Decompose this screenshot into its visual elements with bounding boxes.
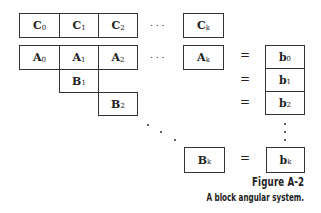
diagonal-dot bbox=[160, 131, 162, 133]
equals-k: = bbox=[238, 151, 252, 165]
rhs-bk: bk bbox=[266, 147, 305, 173]
diagonal-dot bbox=[174, 139, 176, 141]
block-b1: B1 bbox=[59, 69, 99, 93]
block-a2: A2 bbox=[98, 45, 138, 70]
vertical-dot bbox=[284, 123, 286, 125]
block-bk: Bk bbox=[184, 147, 225, 173]
block-b2: B2 bbox=[98, 92, 138, 116]
equals-0: = bbox=[238, 48, 252, 62]
equals-2: = bbox=[238, 95, 252, 109]
vertical-dot bbox=[284, 131, 286, 133]
figure-title: Figure A-2 bbox=[252, 175, 304, 189]
block-ck: Ck bbox=[183, 13, 224, 38]
vertical-dot bbox=[284, 139, 286, 141]
rhs-b0: b0 bbox=[265, 45, 305, 69]
block-a1: A1 bbox=[59, 45, 99, 70]
rhs-b2: b2 bbox=[265, 91, 305, 115]
block-c2: C2 bbox=[98, 13, 138, 38]
ellipsis-c: . . . bbox=[150, 18, 164, 28]
ellipsis-a: . . . bbox=[150, 50, 164, 60]
block-ak: Ak bbox=[183, 45, 224, 70]
equals-1: = bbox=[238, 72, 252, 86]
rhs-b1: b1 bbox=[265, 68, 305, 92]
diagonal-dot bbox=[147, 124, 149, 126]
figure-caption: A block angular system. bbox=[206, 192, 304, 203]
block-a0: A0 bbox=[19, 45, 60, 70]
block-c0: C0 bbox=[19, 13, 60, 38]
block-c1: C1 bbox=[59, 13, 99, 38]
